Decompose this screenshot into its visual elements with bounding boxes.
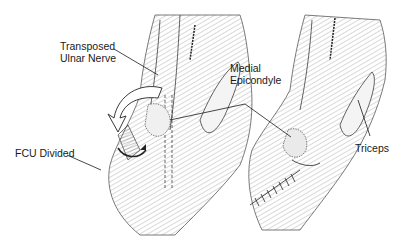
label-fcu-divided: FCU Divided xyxy=(15,147,75,159)
left-arm xyxy=(108,15,252,235)
label-medial-epicondyle: Medial Epicondyle xyxy=(230,62,281,86)
arm-drawing xyxy=(0,0,403,238)
label-triceps: Triceps xyxy=(355,142,389,154)
label-transposed-ulnar-nerve: Transposed Ulnar Nerve xyxy=(60,40,116,64)
illustration: Transposed Ulnar Nerve Medial Epicondyle… xyxy=(0,0,403,238)
